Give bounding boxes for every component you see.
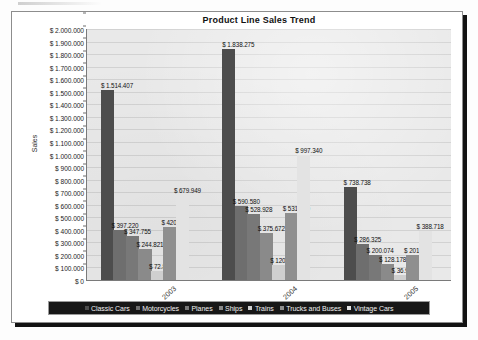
bar-motorcycles-2003[interactable]: $ 397.220 (113, 230, 126, 280)
y-axis-tick-label: $ 1.400.000 (18, 101, 84, 108)
y-axis-tick-label: $ 900.000 (18, 164, 84, 171)
bar-value-label: $ 388.718 (417, 223, 444, 230)
bar-trains-2005[interactable]: $ 36.900 (394, 275, 407, 280)
legend-item-label: Trains (255, 305, 274, 312)
x-axis-category-label-2004: 2004 (281, 284, 299, 301)
bar-trains-2003[interactable]: $ 72.800 (151, 271, 164, 280)
y-axis-tick-label: $ 500.000 (18, 214, 84, 221)
y-axis-tick-mark (83, 50, 86, 51)
plot-area: $ 1.514.407$ 397.220$ 347.755$ 244.821$ … (86, 29, 451, 281)
legend-swatch-icon (219, 306, 223, 310)
bar-value-label: $ 528.928 (245, 206, 272, 213)
scan-artifact (18, 2, 138, 5)
bar-value-label: $ 200.074 (367, 247, 394, 254)
bar-vintage-cars-2005[interactable]: $ 388.718 (419, 231, 432, 280)
legend-swatch-icon (248, 306, 252, 310)
y-axis-tick-label: $ 400.000 (18, 227, 84, 234)
legend-swatch-icon (185, 306, 189, 310)
y-axis-tick-mark (83, 62, 86, 63)
y-axis-tick-label: $ 1.700.000 (18, 64, 84, 71)
y-axis-tick-label: $ 1.600.000 (18, 76, 84, 83)
chart-frame: Product Line Sales Trend Sales $ 2.000.0… (11, 11, 463, 323)
legend-item-classic-cars[interactable]: Classic Cars (85, 305, 130, 312)
scanned-page: Product Line Sales Trend Sales $ 2.000.0… (0, 0, 478, 340)
legend-item-label: Trucks and Buses (286, 305, 341, 312)
y-axis-tick-label: $ 1.800.000 (18, 51, 84, 58)
bar-value-label: $ 997.340 (295, 147, 322, 154)
bar-motorcycles-2004[interactable]: $ 590.580 (235, 206, 248, 280)
legend-swatch-icon (280, 306, 284, 310)
y-axis-tick-label: $ 1.000.000 (18, 152, 84, 159)
y-axis-tick-mark (83, 75, 86, 76)
y-axis-tick-label: $ 1.900.000 (18, 39, 84, 46)
bar-group-2003: $ 1.514.407$ 397.220$ 347.755$ 244.821$ … (101, 29, 189, 280)
bar-trains-2004[interactable]: $ 120.300 (272, 265, 285, 280)
x-axis-category-label-2005: 2005 (402, 284, 420, 301)
y-axis-tick-mark (83, 163, 86, 164)
bar-value-label: $ 128.178 (379, 256, 406, 263)
y-axis-tick-mark (83, 12, 86, 13)
y-axis-tick-label: $ 200.000 (18, 252, 84, 259)
bar-value-label: $ 1.838.275 (222, 41, 254, 48)
y-axis-tick-mark (83, 175, 86, 176)
bar-classic-cars-2003[interactable]: $ 1.514.407 (101, 90, 114, 280)
y-axis-tick-mark (83, 188, 86, 189)
legend-item-label: Planes (192, 305, 213, 312)
y-axis-tick-mark (83, 138, 86, 139)
bar-value-label: $ 286.325 (354, 236, 381, 243)
y-axis-tick-mark (83, 263, 86, 264)
bar-value-label: $ 1.514.407 (101, 82, 133, 89)
y-axis-tick-label: $ 600.000 (18, 202, 84, 209)
y-axis-tick-label: $ 100.000 (18, 264, 84, 271)
bar-value-label: $ 738.738 (344, 179, 371, 186)
y-axis-tick-mark (83, 250, 86, 251)
legend-item-motorcycles[interactable]: Motorcycles (136, 305, 179, 312)
bar-vintage-cars-2004[interactable]: $ 997.340 (297, 155, 310, 280)
legend-swatch-icon (347, 306, 351, 310)
y-axis-tick-mark (83, 87, 86, 88)
y-axis-tick-mark (83, 25, 86, 26)
y-axis-tick-label: $ 300.000 (18, 239, 84, 246)
y-axis-tick-label: $ 700.000 (18, 189, 84, 196)
y-axis-tick-label: $ 800.000 (18, 177, 84, 184)
bar-group-2005: $ 738.738$ 286.325$ 200.074$ 128.178$ 36… (344, 29, 432, 280)
bar-value-label: $ 347.755 (124, 228, 151, 235)
bar-classic-cars-2004[interactable]: $ 1.838.275 (222, 49, 235, 280)
y-axis-tick-mark (83, 150, 86, 151)
x-axis-category-label-2003: 2003 (160, 284, 178, 301)
y-axis-tick-label: $ 1.100.000 (18, 139, 84, 146)
legend-item-label: Classic Cars (91, 305, 130, 312)
bar-value-label: $ 375.672 (258, 225, 285, 232)
y-axis-tick-labels: $ 2.000.000$ 1.900.000$ 1.800.000$ 1.700… (16, 29, 84, 280)
chart-title-text: Product Line Sales Trend (161, 15, 316, 25)
legend-item-vintage-cars[interactable]: Vintage Cars (347, 305, 393, 312)
legend-swatch-icon (85, 306, 89, 310)
bar-value-label: $ 244.821 (136, 241, 163, 248)
bar-trucks-and-buses-2004[interactable]: $ 531.500 (285, 213, 298, 280)
bar-trucks-and-buses-2003[interactable]: $ 420.400 (163, 227, 176, 280)
y-axis-tick-mark (83, 225, 86, 226)
y-axis-tick-label: $ 0 (18, 277, 84, 284)
bar-classic-cars-2005[interactable]: $ 738.738 (344, 187, 357, 280)
legend-swatch-icon (136, 306, 140, 310)
legend-item-planes[interactable]: Planes (185, 305, 213, 312)
bar-trucks-and-buses-2005[interactable]: $ 201.600 (406, 255, 419, 280)
legend-item-label: Motorcycles (142, 305, 179, 312)
bar-group-2004: $ 1.838.275$ 590.580$ 528.928$ 375.672$ … (222, 29, 310, 280)
legend-item-ships[interactable]: Ships (219, 305, 243, 312)
y-axis-tick-label: $ 1.200.000 (18, 126, 84, 133)
y-axis-tick-mark (83, 112, 86, 113)
legend-item-trains[interactable]: Trains (248, 305, 273, 312)
y-axis-tick-label: $ 1.500.000 (18, 89, 84, 96)
bar-value-label: $ 590.580 (233, 198, 260, 205)
y-axis-tick-label: $ 1.300.000 (18, 114, 84, 121)
y-axis-tick-mark (83, 125, 86, 126)
y-axis-tick-mark (83, 100, 86, 101)
chart-legend: Classic CarsMotorcyclesPlanesShipsTrains… (48, 301, 430, 315)
y-axis-tick-mark (83, 238, 86, 239)
y-axis-tick-mark (83, 37, 86, 38)
bar-planes-2004[interactable]: $ 528.928 (247, 214, 260, 280)
bar-value-label: $ 679.949 (174, 187, 201, 194)
legend-item-trucks-and-buses[interactable]: Trucks and Buses (280, 305, 341, 312)
bar-vintage-cars-2003[interactable]: $ 679.949 (176, 195, 189, 280)
